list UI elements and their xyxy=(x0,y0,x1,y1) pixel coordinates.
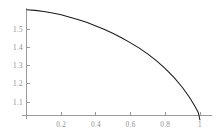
y-tick-label: 1.5 xyxy=(13,26,23,34)
y-tick-label: 1.4 xyxy=(13,44,23,52)
x-tick-label: 0.8 xyxy=(160,121,170,129)
x-tick-label: 0.2 xyxy=(56,121,66,129)
axes-group xyxy=(22,8,212,119)
y-tick-labels: 1.11.21.31.41.5 xyxy=(13,26,23,107)
x-tick-label: 1 xyxy=(198,121,202,129)
plot-figure: 0.20.40.60.81 1.11.21.31.41.5 xyxy=(0,0,219,136)
data-curve-line xyxy=(27,10,201,120)
y-tick-label: 1.3 xyxy=(13,62,23,70)
x-tick-labels: 0.20.40.60.81 xyxy=(56,121,202,129)
y-tick-label: 1.2 xyxy=(13,80,23,88)
x-tick-label: 0.4 xyxy=(91,121,101,129)
y-tick-label: 1.1 xyxy=(13,99,23,107)
x-tick-label: 0.6 xyxy=(126,121,136,129)
plot-canvas: 0.20.40.60.81 1.11.21.31.41.5 xyxy=(0,0,219,136)
